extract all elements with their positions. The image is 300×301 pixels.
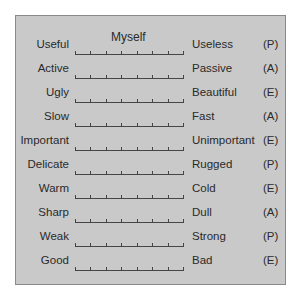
scale-tick xyxy=(121,219,122,223)
scale-tick xyxy=(168,195,169,199)
scale-row: SharpDull(A) xyxy=(0,206,300,228)
factor-label: (A) xyxy=(263,110,278,122)
scale-tick xyxy=(168,243,169,247)
right-adjective: Useless xyxy=(192,38,233,50)
right-adjective: Unimportant xyxy=(192,134,255,146)
scale-tick xyxy=(75,267,76,271)
scale-tick xyxy=(152,147,153,151)
left-adjective: Slow xyxy=(44,110,69,122)
left-adjective: Ugly xyxy=(46,86,69,98)
scale-tick xyxy=(90,219,91,223)
scale-row: GoodBad(E) xyxy=(0,254,300,276)
scale-tick xyxy=(183,123,184,127)
scale-tick xyxy=(137,195,138,199)
rating-scale[interactable] xyxy=(75,74,184,79)
factor-label: (P) xyxy=(263,38,278,50)
scale-tick xyxy=(183,243,184,247)
scale-row: UsefulUseless(P) xyxy=(0,38,300,60)
rating-scale[interactable] xyxy=(75,242,184,247)
scale-tick xyxy=(106,51,107,55)
left-adjective: Sharp xyxy=(38,206,69,218)
scale-tick xyxy=(152,243,153,247)
scale-tick xyxy=(75,195,76,199)
right-adjective: Beautiful xyxy=(192,86,237,98)
scale-tick xyxy=(75,171,76,175)
scale-tick xyxy=(183,51,184,55)
scale-tick xyxy=(90,147,91,151)
factor-label: (A) xyxy=(263,206,278,218)
scale-tick xyxy=(90,51,91,55)
rating-scale[interactable] xyxy=(75,266,184,271)
scale-tick xyxy=(168,267,169,271)
rating-scale[interactable] xyxy=(75,194,184,199)
left-adjective: Good xyxy=(41,254,69,266)
scale-row: ActivePassive(A) xyxy=(0,62,300,84)
right-adjective: Passive xyxy=(192,62,232,74)
factor-label: (E) xyxy=(263,254,278,266)
scale-row: SlowFast(A) xyxy=(0,110,300,132)
left-adjective: Warm xyxy=(39,182,69,194)
scale-tick xyxy=(152,267,153,271)
scale-tick xyxy=(75,219,76,223)
scale-tick xyxy=(183,267,184,271)
scale-tick xyxy=(106,171,107,175)
right-adjective: Cold xyxy=(192,182,216,194)
scale-tick xyxy=(106,99,107,103)
scale-tick xyxy=(90,267,91,271)
right-adjective: Bad xyxy=(192,254,212,266)
rating-scale[interactable] xyxy=(75,122,184,127)
scale-tick xyxy=(168,171,169,175)
scale-tick xyxy=(106,219,107,223)
left-adjective: Weak xyxy=(40,230,69,242)
scale-tick xyxy=(121,99,122,103)
scale-tick xyxy=(168,219,169,223)
scale-row: WarmCold(E) xyxy=(0,182,300,204)
scale-tick xyxy=(183,75,184,79)
scale-tick xyxy=(183,147,184,151)
scale-tick xyxy=(121,75,122,79)
scale-tick xyxy=(183,219,184,223)
right-adjective: Fast xyxy=(192,110,214,122)
scale-tick xyxy=(152,171,153,175)
scale-tick xyxy=(152,195,153,199)
scale-tick xyxy=(152,99,153,103)
left-adjective: Active xyxy=(38,62,69,74)
rating-scale[interactable] xyxy=(75,50,184,55)
scale-tick xyxy=(90,75,91,79)
scale-tick xyxy=(183,171,184,175)
scale-tick xyxy=(168,147,169,151)
scale-row: WeakStrong(P) xyxy=(0,230,300,252)
scale-tick xyxy=(137,51,138,55)
left-adjective: Useful xyxy=(36,38,69,50)
rating-scale[interactable] xyxy=(75,146,184,151)
scale-tick xyxy=(137,171,138,175)
rating-scale[interactable] xyxy=(75,98,184,103)
scale-tick xyxy=(121,51,122,55)
scale-tick xyxy=(106,123,107,127)
scale-tick xyxy=(152,51,153,55)
rating-scale[interactable] xyxy=(75,218,184,223)
scale-tick xyxy=(90,99,91,103)
scale-tick xyxy=(137,123,138,127)
scale-row: ImportantUnimportant(E) xyxy=(0,134,300,156)
scale-tick xyxy=(168,123,169,127)
factor-label: (A) xyxy=(263,62,278,74)
factor-label: (P) xyxy=(263,230,278,242)
rating-scale[interactable] xyxy=(75,170,184,175)
scale-tick xyxy=(75,147,76,151)
scale-tick xyxy=(137,99,138,103)
scale-tick xyxy=(152,75,153,79)
scale-tick xyxy=(121,267,122,271)
scale-row: DelicateRugged(P) xyxy=(0,158,300,180)
left-adjective: Important xyxy=(20,134,69,146)
scale-tick xyxy=(121,123,122,127)
scale-tick xyxy=(121,171,122,175)
scale-tick xyxy=(168,99,169,103)
scale-tick xyxy=(90,195,91,199)
scale-tick xyxy=(168,51,169,55)
left-adjective: Delicate xyxy=(27,158,69,170)
scale-tick xyxy=(75,243,76,247)
scale-row: UglyBeautiful(E) xyxy=(0,86,300,108)
scale-tick xyxy=(137,219,138,223)
factor-label: (E) xyxy=(263,134,278,146)
